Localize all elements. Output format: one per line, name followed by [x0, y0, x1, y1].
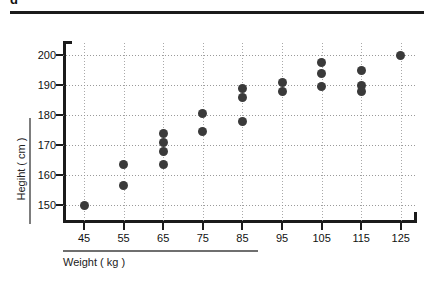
scatter-plot-figure: g 200190180170160150 4555657585951051151…	[0, 0, 433, 282]
data-point	[317, 69, 326, 78]
x-axis-tick-mark	[241, 221, 243, 230]
gridline-vertical	[124, 43, 125, 221]
gridline-horizontal	[63, 205, 415, 206]
x-axis-tick-label: 55	[106, 232, 142, 244]
y-axis-tick-label: 190	[30, 79, 56, 91]
gridline-horizontal	[63, 115, 415, 116]
gridline-horizontal	[63, 55, 415, 56]
gridline-vertical	[84, 43, 85, 221]
x-axis-tick-label: 125	[383, 232, 419, 244]
gridline-vertical	[242, 43, 243, 221]
gridline-horizontal	[63, 175, 415, 176]
data-point	[238, 84, 247, 93]
x-axis-tick-mark	[83, 221, 85, 230]
x-axis-tick-mark	[162, 221, 164, 230]
x-axis-title-rule	[63, 250, 258, 252]
y-axis-tick-label: 180	[30, 109, 56, 121]
x-axis-tick-mark	[400, 221, 402, 230]
y-axis-tick-label: 170	[30, 139, 56, 151]
x-axis-tick-label: 65	[145, 232, 181, 244]
x-axis-spine	[63, 220, 417, 223]
data-point	[357, 66, 366, 75]
x-axis-tick-label: 45	[66, 232, 102, 244]
x-axis-tick-mark	[281, 221, 283, 230]
gridline-vertical	[401, 43, 402, 221]
data-point	[80, 201, 89, 210]
data-point	[238, 117, 247, 126]
gridline-vertical	[282, 43, 283, 221]
x-axis-tick-mark	[202, 221, 204, 230]
data-point	[278, 78, 287, 87]
data-point	[357, 87, 366, 96]
gridline-horizontal	[63, 145, 415, 146]
y-axis-spine	[63, 41, 66, 223]
y-axis-tick-label-wrap: 150	[22, 199, 56, 211]
y-axis-tick-label-wrap: 170	[22, 139, 56, 151]
x-axis-tick-label: 85	[224, 232, 260, 244]
x-axis-right-cap	[414, 212, 417, 223]
y-axis-tick-label-wrap: 180	[22, 109, 56, 121]
data-point	[278, 87, 287, 96]
y-axis-tick-label: 200	[30, 49, 56, 61]
x-axis-tick-mark	[360, 221, 362, 230]
data-point	[159, 129, 168, 138]
y-axis-tick-label-wrap: 160	[22, 169, 56, 181]
data-point	[159, 147, 168, 156]
y-axis-tick-label-wrap: 190	[22, 79, 56, 91]
x-axis-title: Weight ( kg )	[63, 256, 125, 268]
data-point	[396, 51, 405, 60]
x-axis-tick-label: 75	[185, 232, 221, 244]
y-axis-title-rule	[29, 118, 31, 224]
data-point	[159, 138, 168, 147]
data-point	[159, 160, 168, 169]
y-axis-tick-label-wrap: 200	[22, 49, 56, 61]
y-axis-title: Hegiht ( cm )	[15, 126, 27, 212]
data-point	[238, 93, 247, 102]
x-axis-tick-label: 105	[304, 232, 340, 244]
x-axis-tick-mark	[321, 221, 323, 230]
x-axis-tick-mark	[123, 221, 125, 230]
y-axis-tick-label: 160	[30, 169, 56, 181]
clipped-heading: g	[10, 0, 18, 4]
y-axis-top-cap	[63, 41, 72, 44]
x-axis-tick-label: 95	[264, 232, 300, 244]
header-divider	[10, 11, 424, 14]
x-axis-tick-label: 115	[343, 232, 379, 244]
y-axis-tick-label: 150	[30, 199, 56, 211]
